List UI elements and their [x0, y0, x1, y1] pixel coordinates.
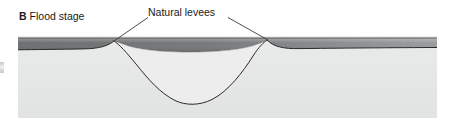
panel-title: Flood stage [30, 10, 85, 22]
flood-stage-figure: BFlood stage Natural levees [0, 0, 449, 130]
floodplain-block [18, 36, 437, 118]
panel-caption: BFlood stage [19, 11, 84, 22]
panel-letter: B [19, 10, 27, 22]
natural-levees-label: Natural levees [148, 7, 215, 18]
cropped-edge-artifact [0, 62, 4, 73]
